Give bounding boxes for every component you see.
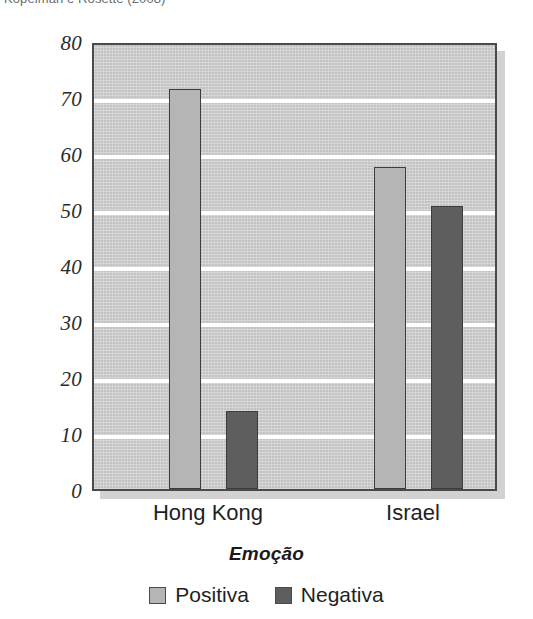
legend-label-positiva: Positiva: [175, 583, 249, 607]
y-axis-tick-10: 10: [60, 423, 82, 448]
legend-item-negativa[interactable]: Negativa: [275, 583, 384, 607]
y-axis-tick-50: 50: [60, 199, 82, 224]
y-axis-tick-20: 20: [60, 367, 82, 392]
bar-hong-kong-positiva[interactable]: [169, 89, 201, 489]
legend-swatch-negativa: [275, 587, 292, 604]
y-axis-title: % Aceitando a oferta: [10, 0, 36, 69]
y-axis-tick-0: 0: [71, 479, 82, 504]
bar-israel-negativa[interactable]: [431, 206, 463, 489]
x-axis-tick-hong-kong: Hong Kong: [153, 500, 263, 526]
y-axis-tick-40: 40: [60, 255, 82, 280]
y-axis-tick-30: 30: [60, 311, 82, 336]
chart-legend: PositivaNegativa: [0, 583, 533, 607]
bar-chart-figure: Kopelman e Rosette (2008) % Aceitando a …: [0, 0, 533, 619]
legend-item-positiva[interactable]: Positiva: [149, 583, 249, 607]
y-axis-title-container: % Aceitando a oferta: [0, 0, 40, 534]
gridline-70: [94, 99, 495, 103]
x-axis-title: Emoção: [0, 543, 533, 565]
gridline-60: [94, 155, 495, 159]
y-axis-tick-80: 80: [60, 31, 82, 56]
y-axis-tick-60: 60: [60, 143, 82, 168]
y-axis-tick-70: 70: [60, 87, 82, 112]
x-axis-tick-labels: Hong KongIsrael: [92, 500, 497, 534]
y-axis-tick-labels: 01020304050607080: [40, 0, 88, 619]
plot-area: [92, 43, 497, 491]
legend-label-negativa: Negativa: [301, 583, 384, 607]
bar-hong-kong-negativa[interactable]: [226, 411, 258, 489]
legend-swatch-positiva: [149, 587, 166, 604]
bar-israel-positiva[interactable]: [374, 167, 406, 489]
x-axis-tick-israel: Israel: [386, 500, 440, 526]
